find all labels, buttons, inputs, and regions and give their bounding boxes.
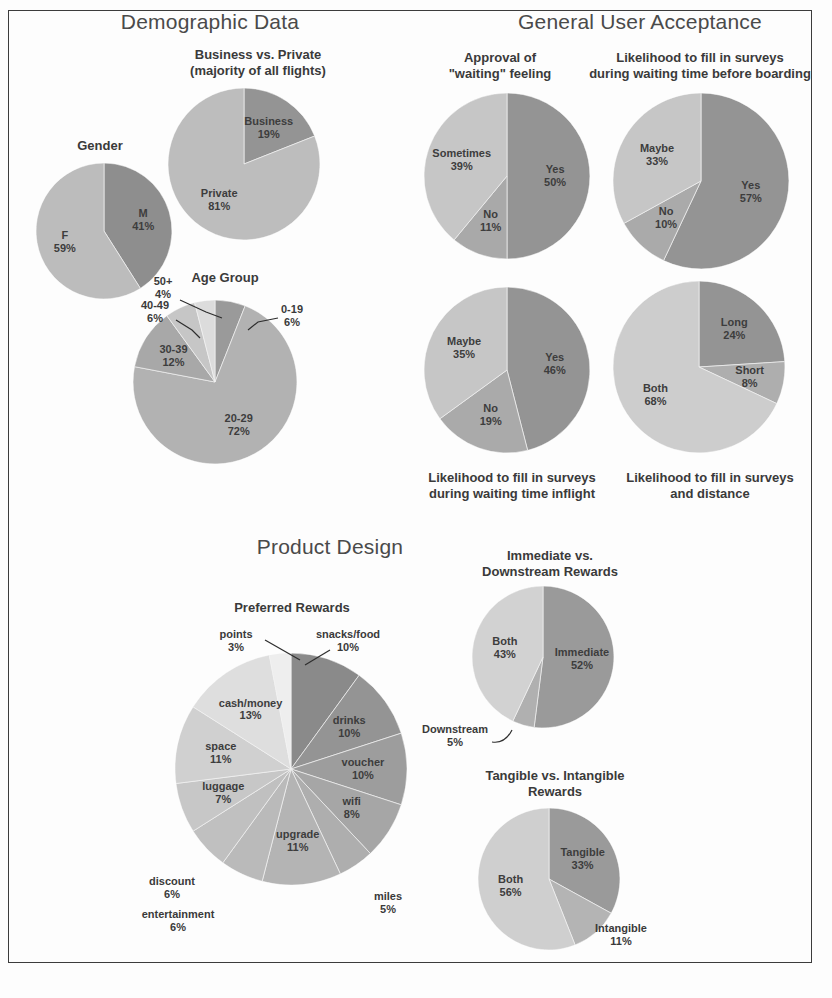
slice-outside-label-downstream: Downstream 5%	[422, 723, 488, 749]
pie-slice	[534, 586, 614, 728]
pie-slice	[507, 93, 590, 259]
pie-chart-surveys-inflight: Yes 46%No 19%Maybe 35%	[424, 287, 590, 453]
pie-slice	[699, 281, 785, 367]
pie-chart-immediate-downstream: Immediate 52%Both 43%	[472, 586, 614, 728]
pie-chart-gender: M 41%F 59%	[36, 163, 172, 299]
slice-outside-label-points: points 3%	[220, 628, 253, 654]
slice-outside-label-age-40-49: 40-49 6%	[141, 299, 169, 325]
chart-title-age-group: Age Group	[160, 270, 290, 286]
pie-slices-approval-waiting	[424, 93, 590, 259]
slice-outside-label-miles: miles 5%	[374, 890, 402, 916]
poster-canvas: Demographic Data General User Acceptance…	[0, 0, 832, 998]
slice-outside-label-age-0-19: 0-19 6%	[281, 303, 303, 329]
pie-chart-surveys-distance: Long 24%Short 8%Both 68%	[613, 281, 785, 453]
slice-outside-label-entertainment: entertainment 6%	[142, 908, 215, 934]
slice-outside-label-snacks-food: snacks/food 10%	[316, 628, 380, 654]
pie-slices-surveys-inflight	[424, 287, 590, 453]
chart-title-preferred-rewards: Preferred Rewards	[192, 600, 392, 616]
pie-chart-business-private: Business 19%Private 81%	[168, 88, 320, 240]
pie-chart-preferred-rewards: drinks 10%voucher 10%wifi 8%upgrade 11%l…	[175, 653, 407, 885]
chart-title-tangible-intangible: Tangible vs. Intangible Rewards	[450, 768, 660, 800]
pie-slices-business-private	[168, 88, 320, 240]
chart-title-surveys-inflight: Likelihood to fill in surveys during wai…	[412, 470, 612, 502]
slice-outside-label-discount: discount 6%	[149, 875, 195, 901]
pie-slices-preferred-rewards	[175, 653, 407, 885]
pie-chart-approval-waiting: Yes 50%No 11%Sometimes 39%	[424, 93, 590, 259]
chart-title-gender: Gender	[30, 138, 170, 154]
pie-slices-gender	[36, 163, 172, 299]
pie-slices-surveys-boarding	[613, 93, 789, 269]
pie-slices-immediate-downstream	[472, 586, 614, 728]
section-title-demographic: Demographic Data	[80, 10, 340, 34]
chart-title-surveys-distance: Likelihood to fill in surveys and distan…	[610, 470, 810, 502]
section-title-product: Product Design	[210, 535, 450, 559]
chart-title-approval-waiting: Approval of "waiting" feeling	[420, 50, 580, 82]
pie-chart-surveys-boarding: Yes 57%No 10%Maybe 33%	[613, 93, 789, 269]
chart-title-surveys-boarding: Likelihood to fill in surveys during wai…	[578, 50, 822, 82]
chart-title-business-private: Business vs. Private (majority of all fl…	[148, 47, 368, 79]
section-title-acceptance: General User Acceptance	[490, 10, 790, 34]
slice-outside-label-age-50plus: 50+ 4%	[154, 275, 173, 301]
chart-title-immediate-downstream: Immediate vs. Downstream Rewards	[455, 548, 645, 580]
pie-slices-surveys-distance	[613, 281, 785, 453]
slice-outside-label-intangible: Intangible 11%	[595, 922, 647, 948]
